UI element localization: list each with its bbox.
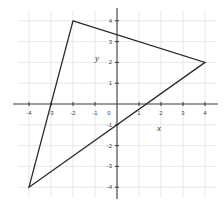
x-tick-label: 3 <box>181 110 185 116</box>
x-tick-label: 2 <box>159 110 163 116</box>
y-tick-label: -4 <box>107 184 113 190</box>
y-tick-label: -1 <box>107 122 113 128</box>
x-tick-label: 1 <box>137 110 141 116</box>
x-tick-label: -4 <box>26 110 32 116</box>
x-axis-label: x <box>156 123 161 133</box>
x-tick-label: 0 <box>107 110 111 116</box>
coordinate-plane: -4-3-2-101234-4-3-2-11234 x y <box>0 0 224 208</box>
y-tick-label: -2 <box>107 143 113 149</box>
y-axis-label: y <box>94 53 99 63</box>
x-tick-label: 4 <box>203 110 207 116</box>
x-tick-label: -2 <box>70 110 76 116</box>
x-tick-label: -1 <box>92 110 98 116</box>
y-tick-label: -3 <box>107 163 113 169</box>
